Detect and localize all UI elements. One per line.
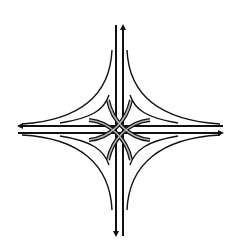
- interchange-svg: [0, 0, 237, 251]
- interchange-diagram: [0, 0, 237, 251]
- mainline-roads: [18, 25, 223, 236]
- central-flyovers: [89, 100, 150, 160]
- outer-ramps: [22, 50, 220, 210]
